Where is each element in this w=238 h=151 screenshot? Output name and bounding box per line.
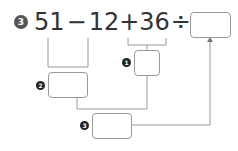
step-3-box[interactable] — [92, 113, 132, 139]
step-2-box[interactable] — [48, 72, 88, 98]
plus-sign: + — [119, 7, 139, 37]
step-1-badge: 1 — [122, 58, 131, 67]
minus-sign: − — [67, 7, 87, 37]
step-3-badge: 3 — [80, 121, 89, 130]
operand-51: 51 — [34, 7, 65, 37]
operand-12: 12 — [89, 7, 120, 37]
operand-36: 36 — [139, 7, 170, 37]
divide-sign: ÷ — [171, 7, 191, 37]
step-2-badge: 2 — [36, 81, 45, 90]
step-1-box[interactable] — [134, 50, 160, 76]
answer-box[interactable] — [190, 12, 231, 38]
problem-number-badge: 3 — [14, 15, 28, 29]
